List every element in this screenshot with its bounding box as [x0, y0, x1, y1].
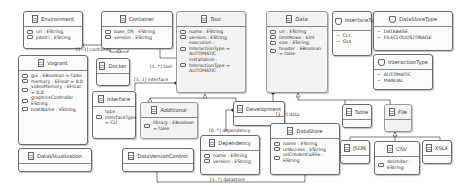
- literal: GUI: [343, 39, 351, 45]
- class-datavisualization[interactable]: DataVisualization: [18, 148, 92, 172]
- abstract-class-icon: [389, 108, 395, 116]
- class-name: Tool: [210, 16, 220, 22]
- attribute: library : EBoolean = false: [153, 120, 194, 131]
- abstract-class-icon: [151, 106, 157, 114]
- attribute-icon: [270, 49, 276, 53]
- enum-interactiontype[interactable]: InteractionType −AUTOMATIC −MANUAL: [373, 54, 433, 90]
- enum-interfacetype[interactable]: InterfaceType −CLI −GUI: [332, 11, 372, 56]
- enum-name: InteractionType: [388, 59, 428, 65]
- attribute: delimiter : EString: [387, 159, 416, 170]
- attribute-icon: [22, 107, 28, 111]
- class-icon: [209, 139, 215, 147]
- abstract-class-icon: [286, 15, 292, 23]
- class-dependency[interactable]: Dependency name : EString version : EStr…: [200, 135, 260, 175]
- class-icon: [237, 105, 243, 113]
- attribute: hostName : EString: [31, 107, 76, 113]
- attribute-icon: [378, 163, 384, 167]
- class-name: XSLX: [435, 145, 448, 151]
- attribute: version : EString: [114, 35, 152, 41]
- class-docker[interactable]: Docker: [96, 58, 130, 86]
- attribute-icon: [180, 47, 186, 51]
- reference-label-interface: [1..1] interface: [134, 77, 168, 82]
- class-name: Docker: [108, 63, 126, 69]
- class-tool[interactable]: Tool name : EString version : EString ex…: [176, 11, 246, 93]
- attribute-icon: [180, 63, 186, 67]
- attribute-icon: [105, 30, 111, 34]
- literal-icon: −: [336, 39, 340, 45]
- class-icon: [387, 145, 393, 153]
- abstract-class-icon: [201, 15, 207, 23]
- attribute: installation : InteractionType = AUTOMAT…: [189, 57, 242, 74]
- class-name: DataStore: [296, 128, 322, 134]
- attribute-icon: [270, 41, 276, 45]
- class-table[interactable]: Table: [342, 104, 372, 128]
- class-name: JSON: [353, 145, 366, 151]
- class-icon: [287, 127, 293, 135]
- class-data[interactable]: Data uri : EString limitRows : EInt size…: [266, 11, 328, 93]
- attribute-icon: [270, 30, 276, 34]
- class-xslx[interactable]: XSLX: [422, 140, 452, 164]
- class-icon: [344, 144, 350, 152]
- attribute-icon: [96, 115, 102, 119]
- class-name: DataVisualization: [37, 153, 82, 159]
- class-interface[interactable]: Interface type : InterfaceType = CLI: [92, 91, 136, 139]
- attribute-icon: [180, 35, 186, 39]
- class-name: File: [398, 109, 407, 115]
- class-name: Additional: [160, 107, 186, 113]
- literal: MANUAL: [384, 78, 404, 84]
- class-name: Dependency: [218, 140, 251, 146]
- class-icon: [120, 15, 126, 23]
- attribute: jobUri : EString: [36, 35, 71, 41]
- class-name: Vagrant: [47, 60, 67, 66]
- class-icon: [346, 108, 352, 116]
- attribute: graphicsController : EString: [31, 95, 84, 106]
- class-json[interactable]: JSON: [340, 140, 370, 164]
- attribute: type : InterfaceType = CLI: [105, 109, 136, 126]
- attribute-icon: [204, 159, 210, 163]
- attribute-icon: [22, 99, 28, 103]
- reference-label-dependency: [0..*] dependency: [209, 128, 250, 133]
- class-name: CSV: [396, 146, 406, 152]
- attribute-icon: [274, 142, 280, 146]
- class-name: Interface: [107, 96, 130, 102]
- class-container[interactable]: Container base_OS : EString version : ES…: [101, 11, 173, 49]
- class-icon: [99, 62, 105, 70]
- attribute-icon: [144, 124, 150, 128]
- literal: FILECLOUDSTORAGE: [384, 35, 431, 41]
- class-name: Table: [355, 109, 368, 115]
- class-environment[interactable]: Environment uri : EString jobUri : EStri…: [23, 11, 83, 49]
- attribute: uriCredentialFile : EString: [283, 152, 336, 163]
- attribute-icon: [180, 30, 186, 34]
- attribute: videoMemory : EFloat = 0.0: [31, 84, 84, 95]
- enum-datastoretype[interactable]: DataStoreType −DATABASE −FILECLOUDSTORAG…: [373, 11, 453, 51]
- class-datastore[interactable]: DataStore name : EString urlAccess : ESt…: [270, 123, 340, 175]
- attribute: header : EBoolean = false: [279, 46, 324, 57]
- reference-label-tool: [1..*] tool: [150, 64, 172, 69]
- attribute-icon: [274, 147, 280, 151]
- attribute-icon: [204, 154, 210, 158]
- class-name: Data: [295, 16, 307, 22]
- attribute-icon: [22, 79, 28, 83]
- attribute-icon: [22, 74, 28, 78]
- enum-icon: [389, 16, 396, 23]
- literal-icon: −: [377, 78, 381, 84]
- attribute: execution : InteractionType = AUTOMATIC: [189, 40, 242, 57]
- class-icon: [426, 144, 432, 152]
- class-icon: [128, 152, 134, 160]
- class-icon: [32, 15, 38, 23]
- class-icon: [98, 95, 104, 103]
- attribute-icon: [22, 88, 28, 92]
- reference-label-data: [1..*] data: [276, 112, 300, 117]
- class-icon: [28, 152, 34, 160]
- class-dataversioncontrol[interactable]: DataVersionControl: [122, 148, 194, 172]
- class-name: DataVersionControl: [137, 153, 187, 159]
- class-file[interactable]: File: [384, 104, 412, 132]
- class-icon: [38, 59, 44, 67]
- class-vagrant[interactable]: Vagrant gui : EBoolean = false memory : …: [18, 55, 88, 145]
- class-additional[interactable]: Additional library : EBoolean = false: [140, 102, 198, 139]
- attribute-icon: [27, 30, 33, 34]
- enum-name: InterfaceType: [345, 18, 369, 24]
- class-csv[interactable]: CSV delimiter : EString: [374, 141, 420, 175]
- class-name: Environment: [41, 16, 74, 22]
- class-name: Container: [129, 16, 154, 22]
